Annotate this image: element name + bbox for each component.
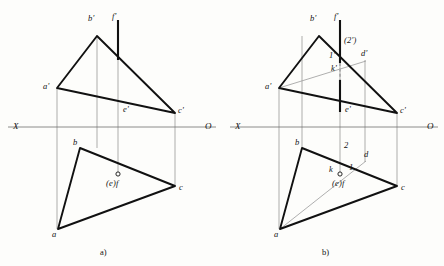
point-marker-ef-a [116, 172, 120, 176]
label-d-prime-b: d' [361, 49, 367, 58]
upper-triangle-a [57, 36, 175, 113]
label-e-prime-a: e' [123, 105, 129, 114]
label-f-prime-b: f' [334, 12, 339, 21]
label-e-prime-b: e' [345, 105, 351, 114]
label-b-prime-a: b' [88, 14, 94, 23]
label-k-prime-b: k' [331, 64, 337, 73]
projection-figure-root: X O b' f' a' c' e' b c a (e)f X O b' f' … [0, 0, 444, 266]
label-k-b: k [329, 165, 333, 174]
label-f-prime-a: f' [112, 12, 117, 21]
label-c-prime-a: c' [178, 106, 184, 115]
label-b-prime-b: b' [310, 14, 316, 23]
label-c-prime-b: c' [400, 106, 406, 115]
label-ef-b: (e)f [332, 179, 345, 188]
lower-triangle-b [280, 148, 397, 229]
label-two-b: 2 [344, 141, 348, 150]
drawing-canvas [0, 0, 444, 266]
label-a-b: a [274, 230, 278, 239]
upper-triangle-b [279, 36, 397, 113]
label-one-b: 1 [349, 163, 353, 172]
panel-a-geometry [8, 20, 216, 229]
label-ef-a: (e)f [106, 179, 119, 188]
label-c-a: c [179, 183, 183, 192]
axis-label-o-a: O [205, 122, 212, 131]
construction-line-ad-frontal [279, 61, 366, 88]
lower-triangle-a [58, 148, 175, 229]
label-a-prime-b: a' [265, 82, 271, 91]
label-two-prime-b: (2') [344, 36, 357, 45]
axis-label-o-b: O [427, 122, 434, 131]
caption-panel-b: b) [322, 247, 329, 257]
label-a-prime-a: a' [43, 82, 49, 91]
axis-label-x-a: X [13, 122, 19, 131]
label-d-b: d [364, 150, 368, 159]
label-b-b: b [295, 138, 299, 147]
label-c-b: c [401, 183, 405, 192]
axis-label-x-b: X [235, 122, 241, 131]
point-marker-ef-b [338, 172, 342, 176]
label-one-prime-b: 1' [329, 51, 335, 60]
label-a-a: a [52, 230, 56, 239]
label-b-a: b [73, 138, 77, 147]
caption-panel-a: a) [100, 247, 107, 257]
